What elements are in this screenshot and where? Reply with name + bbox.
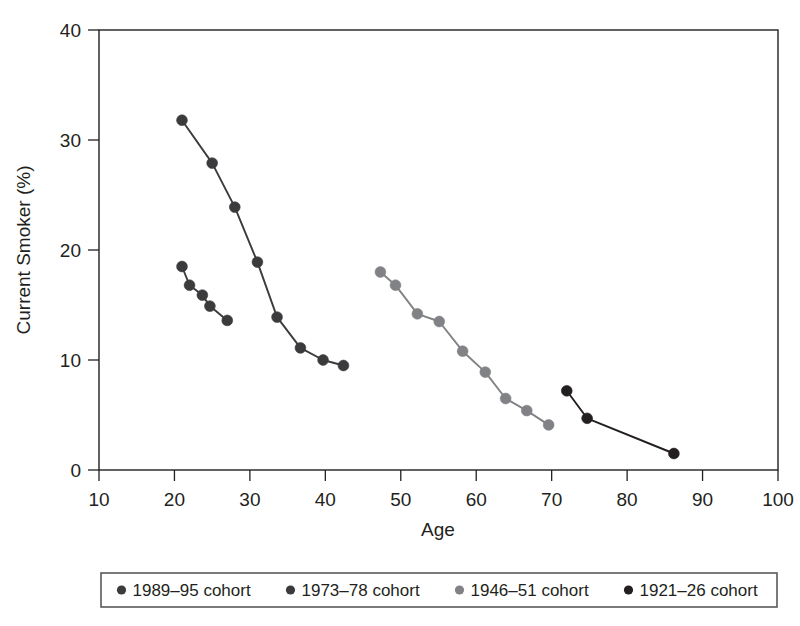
x-tick-label: 80: [617, 489, 638, 510]
x-tick-label: 50: [390, 489, 411, 510]
data-point: [457, 346, 468, 357]
data-point: [177, 261, 188, 272]
chart-svg: 010203040 102030405060708090100 Age Curr…: [0, 0, 800, 626]
x-tick-label: 100: [762, 489, 794, 510]
legend-marker-icon: [624, 585, 633, 594]
x-axis-ticks: [99, 470, 778, 481]
data-point: [272, 312, 283, 323]
x-tick-label: 60: [466, 489, 487, 510]
legend-item-2[interactable]: 1973–78 cohort: [286, 581, 420, 600]
x-axis-title: Age: [421, 519, 455, 540]
y-tick-label: 40: [60, 20, 81, 41]
data-point: [222, 315, 233, 326]
data-point: [252, 257, 263, 268]
data-point: [543, 420, 554, 431]
data-point: [412, 308, 423, 319]
data-point: [184, 280, 195, 291]
data-point: [390, 280, 401, 291]
x-tick-label: 40: [315, 489, 336, 510]
data-point: [318, 355, 329, 366]
legend-item-label: 1946–51 cohort: [471, 581, 589, 600]
x-tick-label: 90: [692, 489, 713, 510]
legend-item-4[interactable]: 1921–26 cohort: [624, 581, 758, 600]
legend-item-3[interactable]: 1946–51 cohort: [455, 581, 589, 600]
legend-item-1[interactable]: 1989–95 cohort: [117, 581, 251, 600]
y-tick-label: 30: [60, 130, 81, 151]
y-axis-ticks: [88, 30, 99, 470]
data-point: [434, 316, 445, 327]
data-point: [205, 301, 216, 312]
x-tick-label: 20: [164, 489, 185, 510]
data-point: [375, 267, 386, 278]
data-point: [480, 367, 491, 378]
y-tick-label: 0: [70, 460, 81, 481]
y-axis-tick-labels: 010203040: [60, 20, 81, 481]
legend-item-label: 1921–26 cohort: [640, 581, 758, 600]
data-point: [177, 115, 188, 126]
x-tick-label: 10: [88, 489, 109, 510]
x-tick-label: 70: [541, 489, 562, 510]
data-point: [229, 202, 240, 213]
y-axis-title: Current Smoker (%): [13, 166, 34, 335]
data-point: [521, 405, 532, 416]
legend-marker-icon: [286, 585, 295, 594]
data-point: [207, 158, 218, 169]
legend-item-label: 1989–95 cohort: [133, 581, 251, 600]
smoking-by-age-cohort-chart: 010203040 102030405060708090100 Age Curr…: [0, 0, 800, 626]
data-point: [500, 393, 511, 404]
legend-marker-icon: [117, 585, 126, 594]
data-point: [197, 290, 208, 301]
data-point: [561, 385, 572, 396]
data-point: [338, 360, 349, 371]
data-point: [582, 413, 593, 424]
y-tick-label: 20: [60, 240, 81, 261]
legend-marker-icon: [455, 585, 464, 594]
y-tick-label: 10: [60, 350, 81, 371]
plot-area-frame: [99, 30, 778, 470]
data-point: [295, 343, 306, 354]
x-tick-label: 30: [239, 489, 260, 510]
legend-item-label: 1973–78 cohort: [302, 581, 420, 600]
x-axis-tick-labels: 102030405060708090100: [88, 489, 793, 510]
data-point: [668, 448, 679, 459]
